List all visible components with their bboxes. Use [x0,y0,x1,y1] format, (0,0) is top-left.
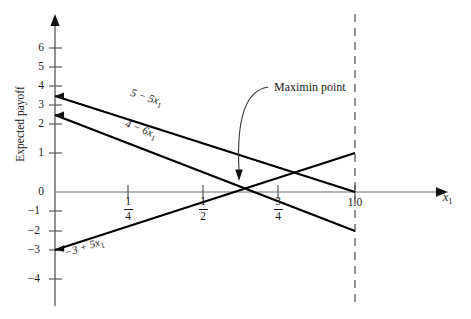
x-tick-label-one-quarter: 1 4 [108,196,148,222]
y-tick-label-6: 6 [22,41,44,53]
y-axis [50,14,59,306]
y-tick-label-0: 0 [22,185,44,197]
y-tick-label-5: 5 [22,60,44,72]
y-tick-label-1: 1 [22,146,44,158]
y-tick-label-2: 2 [22,117,44,129]
x-axis-label: x1 [443,190,453,206]
x-tick-label-one-point-zero: 1.0 [335,196,375,208]
chart-plot-area [0,0,471,319]
x-tick-label-one-half: 1 2 [183,196,223,222]
x-tick-label-three-quarters: 3 4 [258,196,298,222]
y-tick-label-minus-4: −4 [18,272,40,284]
y-tick-label-minus-1: −1 [18,204,40,216]
x-tick-three-quarters-denominator: 4 [258,211,298,223]
x-tick-one-quarter-denominator: 4 [108,211,148,223]
x-tick-one-quarter-numerator: 1 [108,196,148,208]
y-tick-label-minus-2: −2 [18,224,40,236]
x-axis-label-subscript: 1 [448,196,452,206]
expected-payoff-chart: Expected payoff 6 5 4 3 2 1 0 −1 −2 −3 −… [0,0,471,319]
x-tick-one-half-numerator: 1 [183,196,223,208]
y-tick-label-minus-3: −3 [18,243,40,255]
maximin-point-annotation: Maximin point [274,80,346,95]
x-tick-one-half-denominator: 2 [183,211,223,223]
y-tick-label-3: 3 [22,98,44,110]
y-tick-label-4: 4 [22,79,44,91]
maximin-arrow [235,87,268,181]
series-line-5-minus-5x1 [55,93,355,192]
x-tick-three-quarters-numerator: 3 [258,196,298,208]
